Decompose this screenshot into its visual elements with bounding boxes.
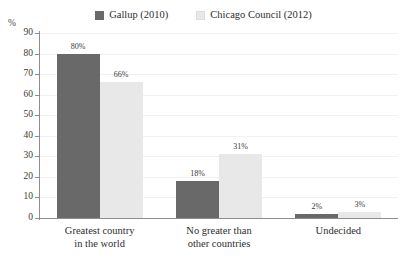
legend-label-chicago-council: Chicago Council (2012) — [210, 10, 311, 21]
y-axis-tick-mark — [35, 197, 39, 198]
x-axis-category-label: No greater thanother countries — [159, 224, 278, 250]
y-axis-tick-label: 60 — [1, 90, 33, 100]
category-label-line: other countries — [159, 237, 278, 250]
bar-group: 18%31% — [159, 33, 278, 218]
bar[interactable] — [176, 181, 219, 218]
bar-value-label: 18% — [176, 170, 219, 178]
bar[interactable] — [295, 214, 338, 218]
bar-value-label: 66% — [100, 71, 143, 79]
y-axis-tick-label: 50 — [1, 110, 33, 120]
y-axis-tick-mark — [35, 115, 39, 116]
y-axis-tick-mark — [35, 95, 39, 96]
x-axis-category-labels: Greatest countryin the worldNo greater t… — [40, 224, 398, 258]
x-axis-category-label: Greatest countryin the world — [40, 224, 159, 250]
category-label-line: Greatest country — [40, 224, 159, 237]
chart-legend: Gallup (2010) Chicago Council (2012) — [0, 6, 407, 24]
y-axis-tick-label: 20 — [1, 172, 33, 182]
y-axis-tick-mark — [35, 74, 39, 75]
y-axis-tick-label: 40 — [1, 131, 33, 141]
legend-swatch-gallup — [95, 11, 104, 20]
bar[interactable] — [57, 54, 100, 218]
y-axis-tick-mark — [35, 177, 39, 178]
bar-value-label: 2% — [295, 203, 338, 211]
y-axis-tick-labels: 0102030405060708090 — [0, 0, 33, 258]
x-axis-line — [39, 218, 398, 219]
y-axis-tick-label: 10 — [1, 192, 33, 202]
y-axis-tick-label: 70 — [1, 69, 33, 79]
y-axis-tick-label: 0 — [1, 213, 33, 223]
category-label-line: Undecided — [279, 224, 398, 237]
bar-group: 2%3% — [279, 33, 398, 218]
y-axis-tick-mark — [35, 33, 39, 34]
bar[interactable] — [100, 82, 143, 218]
legend-entry-gallup: Gallup (2010) — [95, 10, 168, 21]
legend-swatch-chicago-council — [196, 11, 205, 20]
legend-entry-chicago-council: Chicago Council (2012) — [196, 10, 311, 21]
bar-value-label: 80% — [57, 43, 100, 51]
bar-group: 80%66% — [40, 33, 159, 218]
plot-area: 80%66%18%31%2%3% — [40, 33, 398, 218]
bar[interactable] — [219, 154, 262, 218]
bar[interactable] — [338, 212, 381, 218]
bar-value-label: 3% — [338, 201, 381, 209]
y-axis-tick-label: 30 — [1, 151, 33, 161]
category-label-line: in the world — [40, 237, 159, 250]
legend-label-gallup: Gallup (2010) — [109, 10, 168, 21]
y-axis-tick-label: 80 — [1, 49, 33, 59]
y-axis-tick-label: 90 — [1, 28, 33, 38]
bar-value-label: 31% — [219, 143, 262, 151]
y-axis-tick-mark — [35, 136, 39, 137]
y-axis-tick-mark — [35, 54, 39, 55]
category-label-line: No greater than — [159, 224, 278, 237]
y-axis-tick-mark — [35, 218, 39, 219]
y-axis-tick-mark — [35, 156, 39, 157]
x-axis-category-label: Undecided — [279, 224, 398, 237]
